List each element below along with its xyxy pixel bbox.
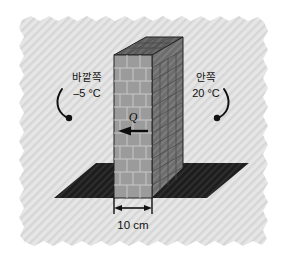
inside-label-temperature: 20 °C — [192, 87, 220, 99]
left-leader-dot — [66, 115, 72, 121]
right-leader-dot — [214, 115, 220, 121]
inside-label-name: 안쪽 — [196, 71, 216, 83]
figure-container: Q 바깥쪽 –5 °C 안쪽 20 °C 10 cm — [0, 0, 287, 263]
outside-label-temperature: –5 °C — [73, 87, 101, 99]
dimension-label: 10 cm — [117, 219, 148, 231]
wall-heat-diagram: Q 바깥쪽 –5 °C 안쪽 20 °C 10 cm — [0, 0, 287, 263]
wall-front-brick-lines — [114, 55, 152, 198]
heat-flow-symbol: Q — [129, 110, 138, 124]
outside-label-name: 바깥쪽 — [72, 71, 102, 83]
